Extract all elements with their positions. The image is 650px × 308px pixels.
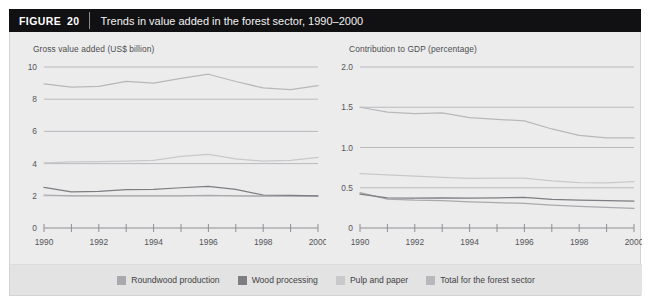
x-axis-tick-label: 1994 — [460, 237, 479, 247]
legend-item-label: Total for the forest sector — [440, 275, 535, 285]
series-line — [44, 186, 318, 195]
legend-color-swatch — [426, 276, 435, 285]
figure-title-bar: FIGURE 20 Trends in value added in the f… — [9, 9, 641, 32]
series-line — [44, 74, 318, 89]
x-axis-tick-label: 1996 — [515, 237, 534, 247]
figure-tag-label: FIGURE — [19, 15, 61, 27]
y-axis-tick-label: 0 — [348, 223, 353, 233]
x-axis-tick-label: 1994 — [144, 237, 163, 247]
y-axis-tick-label: 10 — [28, 62, 38, 72]
legend-item-label: Pulp and paper — [350, 275, 408, 285]
y-axis-tick-label: 8 — [32, 94, 37, 104]
y-axis-tick-label: 4 — [32, 159, 37, 169]
x-axis-tick-label: 1996 — [199, 237, 218, 247]
chart-contribution-to-gdp: Contribution to GDP (percentage) 00.51.0… — [326, 32, 642, 264]
x-axis-tick-label: 1992 — [89, 237, 108, 247]
y-axis-tick-label: 1.0 — [341, 143, 353, 153]
legend-item: Roundwood production — [117, 275, 219, 285]
charts-area: Gross value added (US$ billion) 02468101… — [10, 32, 642, 264]
x-axis-tick-label: 1992 — [405, 237, 424, 247]
x-axis-tick-label: 2000 — [309, 237, 326, 247]
chart-legend: Roundwood productionWood processingPulp … — [10, 264, 642, 295]
chart-gross-value-added: Gross value added (US$ billion) 02468101… — [10, 32, 326, 264]
line-chart-gross-value-added: 0246810199019921994199619982000 — [10, 32, 326, 264]
legend-item: Pulp and paper — [336, 275, 408, 285]
series-line — [360, 174, 634, 183]
series-line — [44, 154, 318, 163]
x-axis-tick-label: 1990 — [351, 237, 370, 247]
y-axis-tick-label: 1.5 — [341, 102, 353, 112]
x-axis-tick-label: 1998 — [570, 237, 589, 247]
y-axis-tick-label: 2 — [32, 191, 37, 201]
figure-tag: FIGURE 20 — [9, 9, 89, 32]
series-line — [360, 107, 634, 138]
page-margin-bottom — [0, 297, 650, 308]
y-axis-tick-label: 0 — [32, 223, 37, 233]
y-axis-tick-label: 2.0 — [341, 62, 353, 72]
figure-body-panel: Gross value added (US$ billion) 02468101… — [9, 32, 641, 296]
page-margin-top — [0, 0, 650, 9]
legend-item: Wood processing — [238, 275, 318, 285]
legend-item-label: Roundwood production — [131, 275, 219, 285]
legend-color-swatch — [336, 276, 345, 285]
figure-container: FIGURE 20 Trends in value added in the f… — [0, 0, 650, 308]
line-chart-contribution-to-gdp: 00.51.01.52.0199019921994199619982000 — [326, 32, 642, 264]
y-axis-tick-label: 6 — [32, 126, 37, 136]
legend-item: Total for the forest sector — [426, 275, 535, 285]
x-axis-tick-label: 2000 — [625, 237, 642, 247]
y-axis-tick-label: 0.5 — [341, 183, 353, 193]
figure-title: Trends in value added in the forest sect… — [90, 9, 364, 32]
x-axis-tick-label: 1998 — [254, 237, 273, 247]
x-axis-tick-label: 1990 — [35, 237, 54, 247]
legend-item-label: Wood processing — [252, 275, 318, 285]
legend-color-swatch — [117, 276, 126, 285]
legend-color-swatch — [238, 276, 247, 285]
figure-tag-number: 20 — [67, 15, 79, 27]
